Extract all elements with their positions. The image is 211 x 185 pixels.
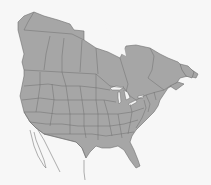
north-america-map — [0, 0, 211, 185]
